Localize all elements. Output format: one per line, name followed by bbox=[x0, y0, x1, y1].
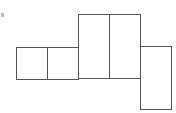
face-bottom-right bbox=[141, 47, 172, 110]
face-tall-right bbox=[110, 15, 141, 79]
face-tall-left bbox=[79, 15, 110, 79]
net-faces bbox=[17, 15, 172, 110]
corner-mark bbox=[1, 13, 4, 17]
prism-net-diagram bbox=[0, 0, 176, 113]
face-small-left bbox=[17, 48, 48, 80]
face-small-right bbox=[48, 48, 79, 80]
